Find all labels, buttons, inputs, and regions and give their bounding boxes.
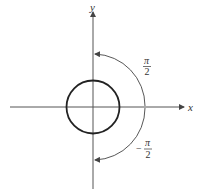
label-pi-over-2: π 2 — [143, 55, 151, 77]
y-axis-label: y — [89, 1, 95, 13]
polar-diagram: x y π 2 − π 2 — [0, 0, 201, 193]
angle-arc-upper — [95, 54, 145, 106]
bottom-sign: − — [136, 143, 142, 154]
x-axis-label: x — [187, 101, 193, 113]
bottom-numerator: π — [145, 137, 151, 148]
top-numerator: π — [144, 55, 150, 66]
label-neg-pi-over-2: − π 2 — [136, 137, 152, 160]
bottom-denominator: 2 — [146, 149, 151, 160]
top-denominator: 2 — [145, 66, 150, 77]
